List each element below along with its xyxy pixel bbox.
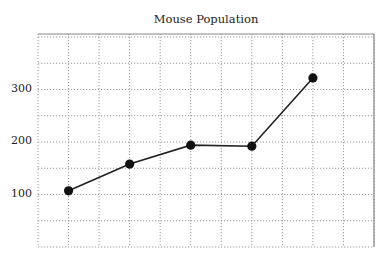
data-point-marker xyxy=(247,142,256,151)
data-point-marker xyxy=(64,186,73,195)
data-point-marker xyxy=(186,141,195,150)
line-chart xyxy=(0,0,386,263)
data-point-marker xyxy=(308,73,317,82)
data-point-marker xyxy=(125,159,134,168)
